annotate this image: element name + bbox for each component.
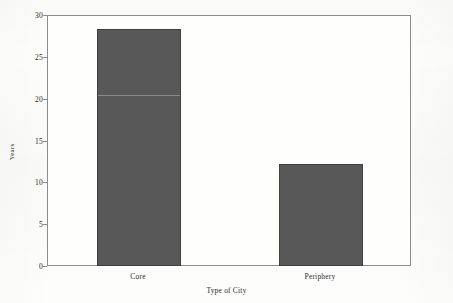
y-tick-mark	[43, 266, 47, 267]
x-axis-title: Type of City	[0, 286, 453, 295]
y-tick-label: 10	[2, 178, 43, 187]
bar	[279, 164, 363, 266]
y-tick-label: 5	[2, 220, 43, 229]
y-tick-label: 15	[2, 136, 43, 145]
scan-artifact-line	[98, 95, 180, 96]
y-tick-label: 20	[2, 94, 43, 103]
y-tick-label: 0	[2, 262, 43, 271]
x-tick-label: Core	[130, 272, 145, 281]
y-axis-title: Years	[8, 144, 16, 161]
bar	[97, 29, 181, 266]
y-tick-label: 25	[2, 52, 43, 61]
x-tick-label: Periphery	[305, 272, 336, 281]
plot-area	[47, 15, 411, 266]
y-tick-label: 30	[2, 11, 43, 20]
bar-chart-figure: Years 051015202530 CorePeriphery Type of…	[0, 0, 453, 303]
